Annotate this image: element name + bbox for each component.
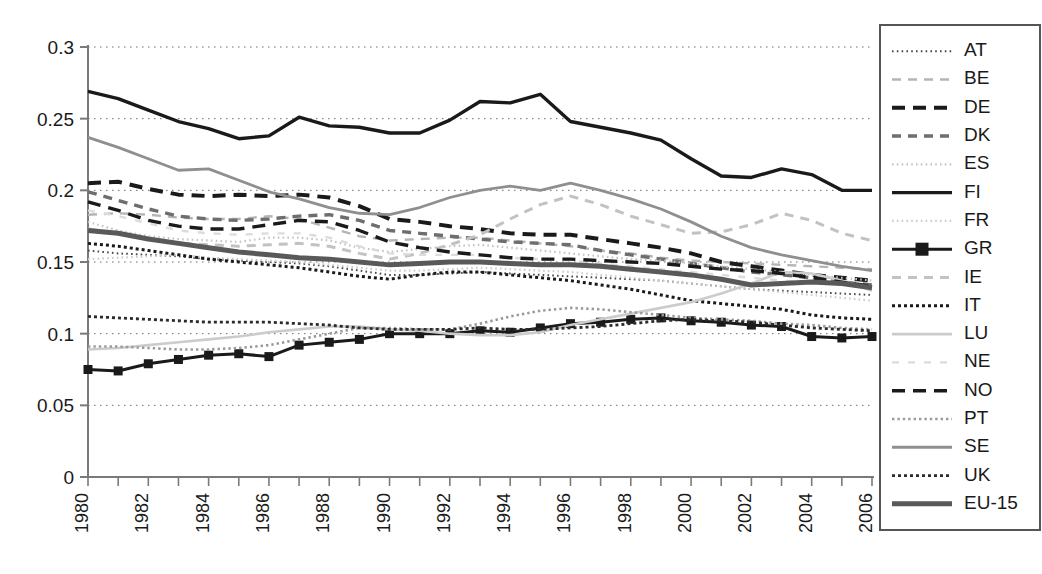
data-point-marker — [234, 349, 243, 358]
data-point-marker — [837, 333, 846, 342]
y-tick-label: 0.2 — [48, 180, 74, 201]
legend-label-eu-15: EU-15 — [964, 492, 1018, 513]
legend-label-es: ES — [964, 152, 989, 173]
y-tick-label: 0.3 — [48, 37, 74, 58]
legend-label-it: IT — [964, 294, 981, 315]
data-point-marker — [144, 359, 153, 368]
data-point-marker — [807, 332, 816, 341]
x-tick-label: 1990 — [374, 493, 394, 533]
chart-legend: ATBEDEDKESFIFRGRIEITLUNENOPTSEUKEU-15 — [880, 25, 1040, 530]
x-tick-label: 1998 — [615, 493, 635, 533]
x-tick-label: 1992 — [434, 493, 454, 533]
data-point-marker — [174, 355, 183, 364]
legend-label-uk: UK — [964, 464, 991, 485]
x-tick-label: 1988 — [313, 493, 333, 533]
legend-label-de: DE — [964, 96, 990, 117]
y-tick-label: 0.05 — [37, 395, 74, 416]
x-tick-label: 2006 — [856, 493, 876, 533]
legend-label-ne: NE — [964, 350, 990, 371]
y-tick-label: 0.15 — [37, 252, 74, 273]
legend-label-ie: IE — [964, 266, 982, 287]
data-point-marker — [84, 365, 93, 374]
legend-box — [880, 25, 1040, 530]
legend-label-se: SE — [964, 435, 989, 456]
legend-label-fr: FR — [964, 209, 989, 230]
legend-label-at: AT — [964, 39, 987, 60]
data-point-marker — [325, 338, 334, 347]
y-tick-label: 0.25 — [37, 109, 74, 130]
x-tick-label: 2004 — [796, 493, 816, 533]
data-point-marker — [868, 332, 877, 341]
legend-label-gr: GR — [964, 237, 993, 258]
legend-label-be: BE — [964, 67, 989, 88]
x-tick-label: 1994 — [494, 493, 514, 533]
x-tick-label: 1980 — [72, 493, 92, 533]
legend-label-fi: FI — [964, 181, 981, 202]
legend-label-no: NO — [964, 379, 993, 400]
legend-label-pt: PT — [964, 407, 989, 428]
x-tick-label: 2000 — [675, 493, 695, 533]
y-tick-label: 0 — [63, 467, 74, 488]
legend-label-dk: DK — [964, 124, 991, 145]
data-point-marker — [114, 366, 123, 375]
legend-label-lu: LU — [964, 322, 988, 343]
chart-root: 00.050.10.150.20.250.3 19801982198419861… — [0, 0, 1042, 574]
line-chart: 00.050.10.150.20.250.3 19801982198419861… — [0, 0, 1042, 574]
x-tick-label: 1996 — [554, 493, 574, 533]
data-point-marker — [264, 352, 273, 361]
x-tick-label: 1986 — [253, 493, 273, 533]
x-tick-label: 2002 — [735, 493, 755, 533]
data-point-marker — [295, 341, 304, 350]
data-point-marker — [204, 351, 213, 360]
x-tick-label: 1982 — [132, 493, 152, 533]
data-point-marker — [355, 335, 364, 344]
x-tick-label: 1984 — [193, 493, 213, 533]
y-tick-label: 0.1 — [48, 324, 74, 345]
legend-marker — [916, 243, 929, 256]
